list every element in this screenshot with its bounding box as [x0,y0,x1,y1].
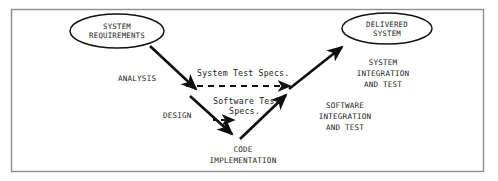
delivered-system-line1: DELIVERED [366,20,408,29]
stage-system-integration-line2: INTEGRATION [357,69,410,78]
arrow-system-integration-ascent [289,47,342,89]
spec-label-software-test-specs-line1: Software Test [213,96,280,106]
vmodel-diagram: SYSTEM REQUIREMENTS DELIVERED SYSTEM ANA… [0,0,498,181]
spec-label-system-test-specs: System Test Specs. [197,68,289,78]
phase-label-design: DESIGN [163,111,192,120]
spec-label-software-test-specs-line2: Specs. [229,106,260,116]
stage-code-implementation-line2: IMPLEMENTATION [210,156,277,165]
arrow-analysis-descent [150,46,196,89]
stage-system-integration-line3: AND TEST [364,80,402,89]
stage-software-integration-line2: INTEGRATION [319,112,372,121]
vmodel-canvas: SYSTEM REQUIREMENTS DELIVERED SYSTEM ANA… [0,0,498,181]
system-requirements-line2: REQUIREMENTS [89,31,145,40]
system-requirements-line1: SYSTEM [103,22,131,31]
stage-software-integration-line1: SOFTWARE [326,101,364,110]
stage-code-implementation-line1: CODE [233,145,252,154]
stage-software-integration-line3: AND TEST [326,123,364,132]
delivered-system-line2: SYSTEM [373,29,401,38]
phase-label-analysis: ANALYSIS [118,74,156,83]
stage-system-integration-line1: SYSTEM [369,58,398,67]
